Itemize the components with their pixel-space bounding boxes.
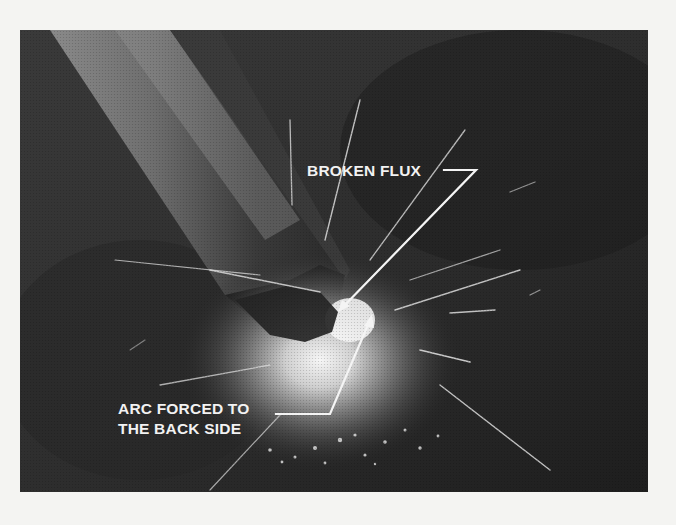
photo-scene	[20, 30, 648, 492]
arc-forced-label-line-1: ARC FORCED TO	[118, 399, 249, 419]
halftone-texture	[20, 30, 648, 492]
arc-forced-label-line-2: THE BACK SIDE	[118, 419, 249, 439]
broken-flux-label-line: BROKEN FLUX	[307, 162, 421, 179]
broken-flux-label: BROKEN FLUX	[307, 161, 421, 181]
welding-photo: BROKEN FLUX ARC FORCED TO THE BACK SIDE	[20, 30, 648, 492]
arc-forced-label: ARC FORCED TO THE BACK SIDE	[118, 399, 249, 439]
